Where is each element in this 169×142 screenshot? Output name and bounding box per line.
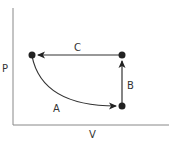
state-point-bottom-right <box>119 103 126 110</box>
process-c-label: C <box>74 42 81 53</box>
x-axis-label: V <box>89 129 96 140</box>
state-point-top-right <box>119 52 126 59</box>
process-a-curve <box>32 56 116 106</box>
pv-diagram: P V C B A <box>0 0 169 142</box>
process-b-label: B <box>127 80 134 91</box>
state-point-top-left <box>29 52 36 59</box>
y-axis-label: P <box>2 63 8 74</box>
process-a-label: A <box>53 103 60 114</box>
